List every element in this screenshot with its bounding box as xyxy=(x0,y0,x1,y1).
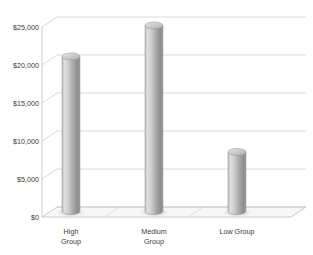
bar-top-cap xyxy=(228,148,246,155)
x-tick-label-low-line1: Low Group xyxy=(219,227,254,236)
y-tick-label: $5,000 xyxy=(17,175,39,184)
bar-body xyxy=(228,152,246,215)
bar-body xyxy=(62,57,80,215)
bar-top-cap xyxy=(62,53,80,60)
y-tick-label: $0 xyxy=(31,213,39,222)
bar-body xyxy=(145,26,163,215)
x-tick-label-high-line1: High xyxy=(64,227,79,236)
x-tick-label-medium-line1: Medium xyxy=(141,227,167,236)
y-tick-label: $10,000 xyxy=(13,137,39,146)
y-tick-label: $25,000 xyxy=(13,23,39,32)
chart-container: $25,000 $20,000 $15,000 $10,000 $5,000 $… xyxy=(0,0,313,255)
bar-top-cap xyxy=(145,22,163,29)
x-tick-label-medium-line2: Group xyxy=(144,237,164,246)
y-tick-label: $15,000 xyxy=(13,99,39,108)
x-tick-label-high-line2: Group xyxy=(61,237,81,246)
bar-chart-svg: $25,000 $20,000 $15,000 $10,000 $5,000 $… xyxy=(0,0,313,255)
y-tick-label: $20,000 xyxy=(13,61,39,70)
